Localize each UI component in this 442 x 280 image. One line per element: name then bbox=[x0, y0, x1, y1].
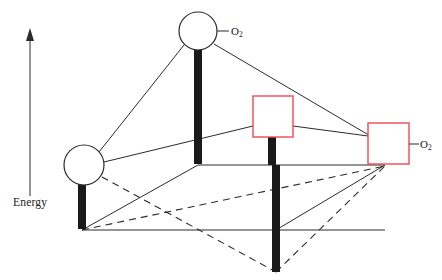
energy-axis-group bbox=[26, 28, 34, 196]
o2-label-right-square-text: O bbox=[420, 138, 428, 150]
diagram-canvas: Energy O2 O2 bbox=[0, 0, 442, 280]
bar-left bbox=[78, 184, 86, 229]
energy-axis-label: Energy bbox=[13, 196, 47, 208]
edges-dashed-group bbox=[82, 166, 385, 272]
o2-label-right-square-subscript: 2 bbox=[428, 143, 432, 152]
bar-middle-square bbox=[268, 137, 276, 165]
dashed-leftcircle-to-bottombar-base bbox=[102, 177, 276, 272]
node-circle-top[interactable] bbox=[179, 12, 217, 50]
node-square-middle[interactable] bbox=[253, 96, 293, 137]
node-square-right[interactable] bbox=[368, 123, 409, 164]
o2-label-top-circle-subscript: 2 bbox=[239, 30, 243, 39]
node-circle-left[interactable] bbox=[64, 145, 104, 185]
dashed-leftbar-base-to-rightsquare-base bbox=[82, 166, 385, 230]
o2-label-top-circle-text: O bbox=[231, 25, 239, 37]
bar-top-center bbox=[194, 49, 202, 164]
bar-bottom-center bbox=[272, 165, 280, 272]
o2-label-right-square: O2 bbox=[420, 138, 432, 150]
edges-solid-group bbox=[82, 44, 385, 230]
edge-bottombar-base-to-rightsquare-base bbox=[276, 165, 385, 230]
edge-leftcircle-to-middlesquare bbox=[104, 126, 253, 162]
energy-axis-arrowhead bbox=[26, 28, 34, 41]
dashed-bottombar-base-to-rightsquare-base bbox=[276, 166, 385, 272]
energy-level-diagram-svg bbox=[0, 0, 442, 280]
edge-topcircle-to-leftcircle bbox=[99, 45, 184, 152]
o2-label-top-circle: O2 bbox=[231, 25, 243, 37]
